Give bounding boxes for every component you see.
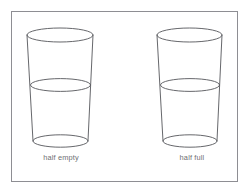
glasses-illustration <box>0 0 250 193</box>
glass-right <box>157 28 222 147</box>
glass-left-base-ellipse <box>33 135 88 147</box>
glass-right-base-ellipse <box>163 135 217 147</box>
glass-left-wall-left <box>27 35 33 141</box>
figure-canvas: half empty half full <box>0 0 250 193</box>
glass-left-wall-right <box>88 35 93 141</box>
caption-half-empty: half empty <box>17 153 105 162</box>
glass-right-rim-ellipse <box>157 28 222 42</box>
glass-right-wall-right <box>217 35 222 141</box>
glass-right-wall-left <box>157 35 163 141</box>
glass-left-rim-ellipse <box>27 28 93 42</box>
caption-half-full: half full <box>148 153 236 162</box>
glass-left-waterline-ellipse <box>31 79 91 92</box>
glass-left <box>27 28 93 147</box>
glass-right-waterline-ellipse <box>161 79 220 92</box>
